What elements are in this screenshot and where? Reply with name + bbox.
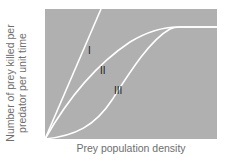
x-axis-label: Prey population density [45,142,217,154]
y-axis-label: Number of prey killed per predator per u… [4,18,38,148]
y-axis-label-line-1: Number of prey killed per [4,18,16,148]
label-I: I [88,45,91,56]
y-axis-label-line-2: predator per unit time [16,18,28,148]
label-III: III [114,85,122,96]
label-II: II [100,65,106,76]
plot-area [45,9,217,139]
functional-response-chart: I II III Number of prey killed per preda… [0,0,228,161]
